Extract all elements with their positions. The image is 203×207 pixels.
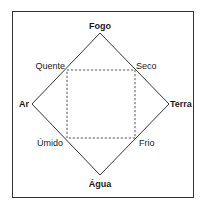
element-label-terra: Terra — [170, 99, 193, 109]
quality-label-umido: Úmido — [37, 138, 63, 148]
quality-label-frio: Frio — [139, 138, 155, 148]
quality-label-seco: Seco — [136, 61, 157, 71]
quality-label-quente: Quente — [35, 61, 65, 71]
element-label-agua: Água — [89, 179, 112, 189]
element-label-ar: Ar — [19, 99, 29, 109]
elements-diamond — [32, 33, 169, 175]
element-label-fogo: Fogo — [89, 21, 111, 31]
qualities-square — [67, 70, 135, 138]
four-elements-diagram: Fogo Água Ar Terra Quente Seco Úmido Fri… — [0, 0, 203, 207]
frame-border — [13, 12, 194, 198]
